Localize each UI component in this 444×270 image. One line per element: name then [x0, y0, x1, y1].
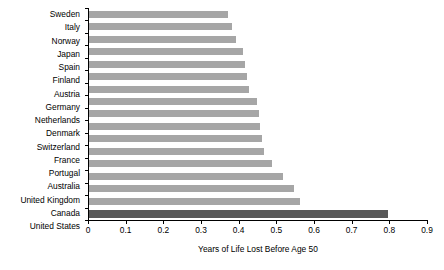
- x-axis-tick: [389, 220, 390, 224]
- bar-row: [89, 45, 428, 57]
- bar: [89, 148, 264, 155]
- bar: [89, 48, 243, 55]
- bar-row: [89, 158, 428, 170]
- x-axis-tick-label: 0.2: [158, 225, 170, 235]
- y-axis-tick: [85, 133, 88, 134]
- bar-row: [89, 120, 428, 132]
- y-axis-tick: [85, 8, 88, 9]
- category-label: Sweden: [0, 8, 84, 21]
- x-axis-tick-label: 0.1: [120, 225, 132, 235]
- bar: [89, 98, 257, 105]
- y-axis-tick: [85, 108, 88, 109]
- bar-row: [89, 170, 428, 182]
- bar-row: [89, 83, 428, 95]
- x-axis-tick: [239, 220, 240, 224]
- bar: [89, 173, 283, 180]
- category-label: Netherlands: [0, 114, 84, 127]
- bar: [89, 86, 249, 93]
- bar: [89, 123, 260, 130]
- bar: [89, 36, 236, 43]
- y-axis-tick: [85, 20, 88, 21]
- x-axis-tick-label: 0.7: [346, 225, 358, 235]
- y-axis-tick: [85, 208, 88, 209]
- bar: [89, 198, 300, 205]
- bar: [89, 11, 228, 18]
- category-label: Italy: [0, 21, 84, 34]
- category-label: Denmark: [0, 127, 84, 140]
- x-axis-tick: [201, 220, 202, 224]
- bar-row: [89, 133, 428, 145]
- y-axis-tick: [85, 170, 88, 171]
- x-axis-tick-label: 0.9: [421, 225, 433, 235]
- bar: [89, 160, 272, 167]
- y-axis-tick: [85, 95, 88, 96]
- plot-area: [88, 8, 428, 220]
- x-axis-title: Years of Life Lost Before Age 50: [88, 244, 428, 254]
- x-axis-tick: [163, 220, 164, 224]
- bar-row: [89, 145, 428, 157]
- bar-row: [89, 95, 428, 107]
- bar-row: [89, 20, 428, 32]
- category-label: United States: [0, 220, 84, 233]
- bar: [89, 210, 388, 218]
- x-axis-tick-label: 0.4: [233, 225, 245, 235]
- y-axis-tick: [85, 33, 88, 34]
- bar-row: [89, 70, 428, 82]
- bar-row: [89, 208, 428, 220]
- y-axis-tick: [85, 70, 88, 71]
- bar-row: [89, 195, 428, 207]
- bar-row: [89, 33, 428, 45]
- category-label: Finland: [0, 74, 84, 87]
- category-label: Spain: [0, 61, 84, 74]
- bar-row: [89, 58, 428, 70]
- y-axis-tick: [85, 183, 88, 184]
- y-axis-tick: [85, 83, 88, 84]
- x-axis-tick: [314, 220, 315, 224]
- y-axis-tick: [85, 120, 88, 121]
- y-axis-tick: [85, 58, 88, 59]
- x-axis-tick-label: 0.5: [271, 225, 283, 235]
- category-label: Germany: [0, 101, 84, 114]
- x-axis-tick: [427, 220, 428, 224]
- category-label: United Kingdom: [0, 194, 84, 207]
- x-axis-tick: [126, 220, 127, 224]
- x-axis-tick: [352, 220, 353, 224]
- bar: [89, 185, 294, 192]
- y-axis-tick: [85, 158, 88, 159]
- x-axis-tick: [276, 220, 277, 224]
- category-label: Australia: [0, 180, 84, 193]
- category-label: France: [0, 154, 84, 167]
- y-axis-tick: [85, 195, 88, 196]
- bar: [89, 23, 232, 30]
- category-axis-labels: SwedenItalyNorwayJapanSpainFinlandAustri…: [0, 8, 84, 220]
- x-axis-ticks: [88, 220, 428, 224]
- category-label: Portugal: [0, 167, 84, 180]
- x-axis-tick-label: 0.3: [195, 225, 207, 235]
- bar-row: [89, 183, 428, 195]
- bar-row: [89, 108, 428, 120]
- category-label: Switzerland: [0, 141, 84, 154]
- y-axis-tick: [85, 145, 88, 146]
- bar-row: [89, 8, 428, 20]
- x-axis-tick-label: 0.8: [384, 225, 396, 235]
- x-axis-tick-label: 0.6: [308, 225, 320, 235]
- y-axis-tick: [85, 45, 88, 46]
- bar-series: [89, 8, 428, 220]
- x-axis-tick-labels: 00.10.20.30.40.50.60.70.80.9: [88, 225, 428, 239]
- category-label: Japan: [0, 48, 84, 61]
- bar: [89, 73, 247, 80]
- category-label: Canada: [0, 207, 84, 220]
- bar: [89, 135, 262, 142]
- category-label: Norway: [0, 35, 84, 48]
- x-axis-tick-label: 0: [86, 225, 91, 235]
- bar: [89, 110, 259, 117]
- x-axis-tick: [88, 220, 89, 224]
- bar: [89, 61, 245, 68]
- category-label: Austria: [0, 88, 84, 101]
- bar-chart: SwedenItalyNorwayJapanSpainFinlandAustri…: [0, 0, 444, 270]
